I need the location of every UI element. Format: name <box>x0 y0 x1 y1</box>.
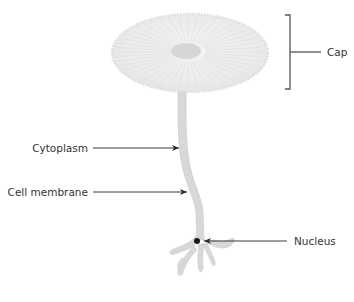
acetabularia-diagram: Cap Cytoplasm Cell membrane Nucleus <box>0 0 354 302</box>
cap-bracket <box>285 15 321 89</box>
cap <box>112 14 268 92</box>
stalk <box>178 88 204 240</box>
cap-label: Cap <box>327 46 348 58</box>
nucleus <box>194 238 200 244</box>
nucleus-label: Nucleus <box>294 235 336 247</box>
rhizoid-base <box>170 236 234 276</box>
cap-center <box>171 43 201 59</box>
cell-membrane-label: Cell membrane <box>8 186 88 198</box>
cytoplasm-label: Cytoplasm <box>32 142 88 154</box>
